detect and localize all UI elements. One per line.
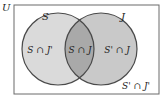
region-j-only-label: S' ∩ J [104, 45, 131, 55]
venn-diagram: U S J S ∩ J' S ∩ J S' ∩ J S' ∩ J' [0, 0, 165, 99]
region-neither-label: S' ∩ J' [122, 81, 150, 91]
region-intersection-label: S ∩ J [68, 45, 92, 55]
set-j-label: J [119, 11, 126, 22]
region-s-only-label: S ∩ J' [27, 45, 53, 55]
set-s-label: S [42, 11, 49, 22]
universe-label: U [2, 2, 11, 13]
